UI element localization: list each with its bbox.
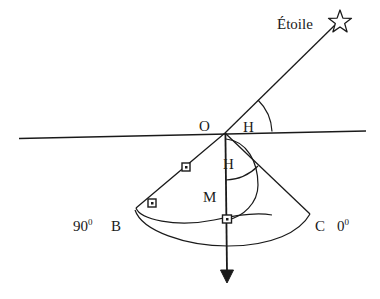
nadir-arrowhead-icon — [221, 270, 234, 283]
diagram-canvas: Étoile O H H M B C 900 00 — [0, 0, 380, 299]
degrees-0-superscript: 0 — [345, 217, 350, 227]
graduation-marker-3-dot — [226, 218, 229, 221]
star-ray-line — [225, 25, 335, 133]
degrees-0-label: 00 — [337, 219, 349, 234]
astronomy-angle-diagram — [0, 0, 380, 299]
meridian-point-label: M — [203, 190, 216, 205]
point-b-label: B — [111, 219, 121, 234]
angle-label-below-horizon: H — [223, 157, 234, 172]
nadir-vertical-line — [225, 133, 227, 272]
angle-label-above-horizon: H — [243, 120, 254, 135]
degrees-0-value: 0 — [337, 218, 345, 234]
angle-arc-h-above — [258, 100, 272, 132]
line-o-to-c — [225, 133, 310, 214]
point-c-label: C — [315, 219, 325, 234]
graduation-arc-inner — [136, 208, 272, 223]
degrees-90-value: 90 — [73, 218, 88, 234]
horizon-line — [19, 131, 366, 139]
star-label: Étoile — [277, 17, 313, 32]
origin-label: O — [199, 119, 210, 134]
graduation-marker-2-dot — [151, 202, 154, 205]
degrees-90-superscript: 0 — [88, 217, 93, 227]
graduation-marker-1-dot — [185, 166, 188, 169]
degrees-90-label: 900 — [73, 219, 93, 234]
